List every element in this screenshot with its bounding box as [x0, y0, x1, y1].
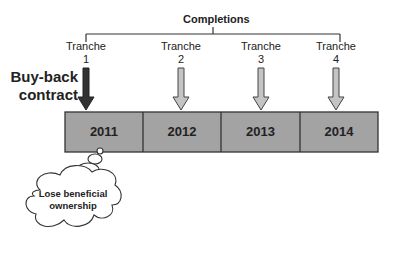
year-2011: 2011 — [65, 124, 143, 139]
tranche-1-arrow-icon — [78, 68, 94, 110]
cloud-line-1: Lose beneficial — [33, 188, 113, 200]
tranche-2-arrow-icon — [173, 68, 189, 110]
tranche-4-arrow-icon — [328, 68, 344, 110]
buyback-line-2: contract — [4, 86, 78, 104]
tranche-2-number: 2 — [151, 53, 211, 66]
tranche-3-title: Tranche — [231, 40, 291, 53]
tranche-4-number: 4 — [306, 53, 366, 66]
tranche-3-arrow-icon — [253, 68, 269, 110]
tranche-1-title: Tranche — [56, 40, 116, 53]
tranche-1-label: Tranche 1 — [56, 40, 116, 66]
cloud-line-2: ownership — [33, 200, 113, 212]
tranche-2-label: Tranche 2 — [151, 40, 211, 66]
tranche-2-title: Tranche — [151, 40, 211, 53]
year-2012: 2012 — [143, 124, 221, 139]
tranche-3-label: Tranche 3 — [231, 40, 291, 66]
tranche-4-title: Tranche — [306, 40, 366, 53]
buyback-line-1: Buy-back — [4, 68, 78, 86]
thought-cloud-text: Lose beneficial ownership — [33, 188, 113, 212]
tranche-4-label: Tranche 4 — [306, 40, 366, 66]
tranche-3-number: 3 — [231, 53, 291, 66]
completions-bracket — [86, 27, 340, 42]
year-2014: 2014 — [300, 124, 378, 139]
tranche-1-number: 1 — [56, 53, 116, 66]
year-2013: 2013 — [221, 124, 300, 139]
completions-label: Completions — [183, 13, 243, 25]
buyback-contract-label: Buy-back contract — [4, 68, 78, 104]
